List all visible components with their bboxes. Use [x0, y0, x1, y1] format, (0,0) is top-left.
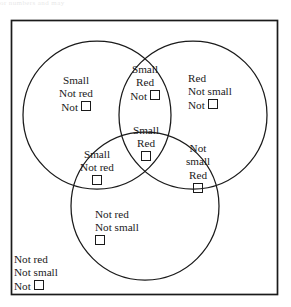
region-line-3-text: Not [61, 101, 78, 113]
open-square-icon [193, 183, 203, 193]
region-line-2: Red [106, 76, 184, 89]
region-small-not-red-square: Small Not red [58, 148, 136, 188]
region-not-red-not-small-square: Not red Not small [95, 208, 195, 248]
open-square-icon [81, 101, 91, 111]
region-line-1: Red [188, 72, 280, 85]
region-line-1: Small [106, 63, 184, 76]
region-line-1: Not [172, 142, 224, 155]
region-line-3-text: Not [188, 99, 205, 111]
region-line-3: Not [106, 90, 184, 103]
region-not-small-red-square: Not small Red [172, 142, 224, 196]
open-square-icon [34, 280, 44, 290]
region-line-3: Red [172, 169, 224, 182]
region-line-1: Not red [95, 208, 195, 221]
open-square-icon [150, 90, 160, 100]
region-line-3-text: Not [14, 280, 31, 292]
open-square-icon [141, 151, 151, 161]
region-not-red-not-small-not-square: Not red Not small Not [14, 253, 124, 293]
region-line-3 [58, 175, 136, 188]
region-line-2: small [172, 155, 224, 168]
region-line-3: Not [14, 280, 124, 293]
region-line-2: Not red [58, 161, 136, 174]
open-square-icon [95, 235, 105, 245]
region-line-1: Not red [14, 253, 124, 266]
region-line-3: Not [188, 99, 280, 112]
open-square-icon [208, 99, 218, 109]
region-line-2: Not small [188, 85, 280, 98]
region-line-2: Not small [14, 266, 124, 279]
region-line-1: Small [112, 124, 180, 137]
region-line-3 [95, 235, 195, 248]
region-line-3-text: Not [130, 90, 147, 102]
region-line-2: Not small [95, 221, 195, 234]
region-red-not-small-not-square: Red Not small Not [188, 72, 280, 112]
region-small-red-not-square: Small Red Not [106, 63, 184, 103]
open-square-icon [92, 175, 102, 185]
region-line-1: Small [58, 148, 136, 161]
venn-diagram-figure: or numbers and may Small Not red Not Sma… [0, 0, 291, 307]
region-line-4 [172, 182, 224, 195]
